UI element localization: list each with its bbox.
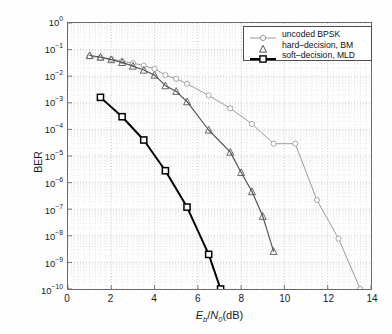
x-tick-label: 8 xyxy=(239,293,245,304)
legend-item[interactable]: hard–decision, BM xyxy=(248,40,371,51)
chart-legend: uncoded BPSKhard–decision, BMsoft–decisi… xyxy=(243,26,372,61)
x-axis-unit: (dB) xyxy=(222,309,243,321)
x-tick-label: 0 xyxy=(64,293,70,304)
y-tick-label: 10−8 xyxy=(45,231,63,242)
x-tick-label: 12 xyxy=(323,293,334,304)
x-tick-label: 14 xyxy=(366,293,377,304)
legend-circle-marker-icon xyxy=(248,29,278,39)
y-tick-label: 100 xyxy=(49,17,63,28)
y-tick-label: 10−7 xyxy=(45,204,63,215)
y-tick-label: 10−5 xyxy=(45,151,63,162)
x-axis-symbol-e: E xyxy=(196,309,203,321)
plot-area xyxy=(67,22,372,290)
x-tick-label: 10 xyxy=(279,293,290,304)
y-tick-label: 10−6 xyxy=(45,177,63,188)
x-axis-subscript-zero: 0 xyxy=(218,315,222,324)
x-axis-tick-labels: 02468101214 xyxy=(67,293,372,309)
legend-square-marker-icon xyxy=(248,50,278,60)
x-tick-label: 4 xyxy=(151,293,157,304)
y-tick-label: 10−9 xyxy=(45,258,63,269)
x-axis-subscript-b: b xyxy=(203,315,207,324)
y-tick-label: 10−4 xyxy=(45,124,63,135)
bER-performance-chart: 10010−110−210−310−410−510−610−710−810−91… xyxy=(0,0,392,334)
y-tick-label: 10−10 xyxy=(41,285,63,296)
y-tick-label: 10−2 xyxy=(45,70,63,81)
legend-item[interactable]: uncoded BPSK xyxy=(248,29,371,40)
x-tick-label: 6 xyxy=(195,293,201,304)
legend-triangle-marker-icon xyxy=(248,40,278,50)
y-axis-title: BER xyxy=(32,122,44,202)
x-tick-label: 2 xyxy=(108,293,114,304)
x-axis-title: Eb/N0(dB) xyxy=(67,309,372,321)
y-tick-label: 10−3 xyxy=(45,97,63,108)
legend-label: uncoded BPSK xyxy=(282,29,340,39)
data-series-layer xyxy=(68,23,371,289)
legend-item[interactable]: soft–decision, MLD xyxy=(248,50,371,61)
y-tick-label: 10−1 xyxy=(45,43,63,54)
legend-label: soft–decision, MLD xyxy=(282,50,355,60)
legend-label: hard–decision, BM xyxy=(282,40,353,50)
